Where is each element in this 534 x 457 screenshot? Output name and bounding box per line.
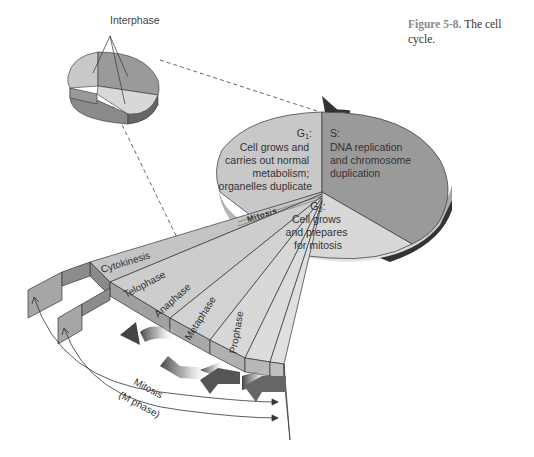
mitosis-fan bbox=[28, 192, 322, 440]
figure-caption: Figure 5-8. The cell cycle. bbox=[408, 17, 528, 47]
g2-heading: G2: bbox=[310, 200, 325, 214]
cell-cycle-diagram: G1: Cell grows and carries out normal me… bbox=[0, 0, 534, 457]
diagram-canvas: G1: Cell grows and carries out normal me… bbox=[0, 0, 534, 457]
s-heading: S: bbox=[330, 127, 340, 139]
figure-number: Figure 5-8. bbox=[408, 18, 461, 30]
g2-description: Cell grows and prepares for mitosis bbox=[286, 213, 351, 251]
interphase-label: Interphase bbox=[110, 14, 160, 26]
small-pie bbox=[68, 36, 159, 124]
g1-heading: G1: bbox=[297, 127, 312, 141]
